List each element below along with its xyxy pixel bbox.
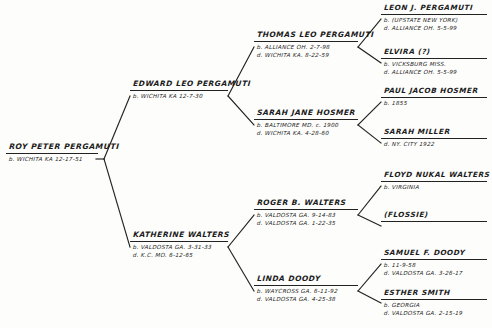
node-root-name: ROY PETER PERGAMUTI bbox=[6, 142, 99, 153]
node-maternal-grandmother-name: LINDA DOODY bbox=[254, 274, 359, 285]
detail-line: d. VALDOSTA GA. 2-15-19 bbox=[384, 309, 488, 317]
node-great-grandmother-1[interactable]: ELVIRA (?) b. VICKSBURG MISS. d. ALLIANC… bbox=[381, 47, 487, 76]
node-great-grandfather-4-details: b. 11-9-58 d. VALDOSTA GA. 3-26-17 bbox=[381, 260, 487, 278]
edge-mgf-ggf3 bbox=[358, 186, 381, 215]
detail-line: b. BALTIMORE MD. c. 1900 bbox=[257, 121, 359, 129]
node-maternal-grandfather[interactable]: ROGER B. WALTERS b. VALDOSTA GA. 9-14-83… bbox=[254, 198, 358, 227]
edge-mgf-ggm3 bbox=[358, 215, 381, 226]
node-great-grandfather-2[interactable]: PAUL JACOB HOSMER b. 1855 bbox=[381, 86, 487, 107]
node-great-grandfather-4[interactable]: SAMUEL F. DOODY b. 11-9-58 d. VALDOSTA G… bbox=[381, 248, 487, 277]
edge-mother-mgf bbox=[228, 215, 254, 247]
node-mother-details: b. VALDOSTA GA. 3-31-33 d. K.C. MO. 6-12… bbox=[130, 242, 228, 260]
detail-line: b. VALDOSTA GA. 3-31-33 bbox=[133, 243, 229, 251]
detail-line: b. WAYCROSS GA. 6-11-92 bbox=[257, 287, 359, 295]
edge-mgm-ggf4 bbox=[358, 264, 381, 291]
detail-line: b. ALLIANCE OH. 2-7-98 bbox=[257, 43, 359, 51]
detail-line: b. WICHITA KA 12-7-30 bbox=[133, 92, 229, 100]
edge-mgm-ggm4 bbox=[358, 291, 381, 303]
edge-mother-mgm bbox=[228, 247, 254, 291]
node-great-grandfather-1-details: b. (UPSTATE NEW YORK) d. ALLIANCE OH. 5-… bbox=[381, 15, 487, 33]
edge-father-pgf bbox=[228, 47, 254, 96]
detail-line: b. VALDOSTA GA. 9-14-83 bbox=[257, 211, 359, 219]
node-great-grandfather-4-name: SAMUEL F. DOODY bbox=[381, 248, 488, 259]
node-father-details: b. WICHITA KA 12-7-30 bbox=[130, 91, 228, 101]
node-maternal-grandmother[interactable]: LINDA DOODY b. WAYCROSS GA. 6-11-92 d. V… bbox=[254, 274, 358, 303]
detail-line: d. WICHITA KA. 8-22-59 bbox=[257, 51, 359, 59]
node-great-grandfather-1[interactable]: LEON J. PERGAMUTI b. (UPSTATE NEW YORK) … bbox=[381, 3, 487, 32]
detail-line: b. VICKSBURG MISS. bbox=[384, 60, 488, 68]
node-root[interactable]: ROY PETER PERGAMUTI b. WICHITA KA 12-17-… bbox=[6, 142, 98, 163]
detail-line: b. GEORGIA bbox=[384, 301, 488, 309]
detail-line: d. NY. CITY 1922 bbox=[384, 140, 488, 148]
node-paternal-grandfather[interactable]: THOMAS LEO PERGAMUTI b. ALLIANCE OH. 2-7… bbox=[254, 30, 358, 59]
detail-line: d. K.C. MO. 6-12-65 bbox=[133, 251, 229, 259]
node-great-grandmother-2-details: d. NY. CITY 1922 bbox=[381, 139, 487, 149]
edge-father-pgm bbox=[228, 96, 254, 125]
detail-line: d. VALDOSTA GA. 4-25-38 bbox=[257, 295, 359, 303]
node-father-name: EDWARD LEO PERGAMUTI bbox=[130, 79, 229, 90]
edge-pgf-ggm1 bbox=[358, 47, 381, 63]
edge-root-mother bbox=[104, 159, 130, 247]
detail-line: b. VIRGINIA bbox=[384, 183, 488, 191]
detail-line: b. 11-9-58 bbox=[384, 261, 488, 269]
node-great-grandmother-3-name: (FLOSSIE) bbox=[381, 210, 488, 221]
node-great-grandfather-2-name: PAUL JACOB HOSMER bbox=[381, 86, 488, 97]
node-great-grandmother-2-name: SARAH MILLER bbox=[381, 127, 488, 138]
node-paternal-grandfather-details: b. ALLIANCE OH. 2-7-98 d. WICHITA KA. 8-… bbox=[254, 42, 358, 60]
node-great-grandfather-1-name: LEON J. PERGAMUTI bbox=[381, 3, 488, 14]
node-paternal-grandmother[interactable]: SARAH JANE HOSMER b. BALTIMORE MD. c. 19… bbox=[254, 108, 358, 137]
node-great-grandfather-3-details: b. VIRGINIA bbox=[381, 182, 487, 192]
node-father[interactable]: EDWARD LEO PERGAMUTI b. WICHITA KA 12-7-… bbox=[130, 79, 228, 100]
node-great-grandmother-2[interactable]: SARAH MILLER d. NY. CITY 1922 bbox=[381, 127, 487, 148]
node-great-grandmother-1-details: b. VICKSBURG MISS. d. ALLIANCE OH. 5-5-9… bbox=[381, 59, 487, 77]
node-root-details: b. WICHITA KA 12-17-51 bbox=[6, 154, 98, 164]
node-mother-name: KATHERINE WALTERS bbox=[130, 230, 229, 241]
node-great-grandmother-4-name: ESTHER SMITH bbox=[381, 288, 488, 299]
node-great-grandmother-1-name: ELVIRA (?) bbox=[381, 47, 488, 58]
edge-pgm-ggm2 bbox=[358, 125, 381, 143]
detail-line: d. ALLIANCE OH. 5-5-99 bbox=[384, 68, 488, 76]
detail-line: d. VALDOSTA GA. 3-26-17 bbox=[384, 269, 488, 277]
node-maternal-grandmother-details: b. WAYCROSS GA. 6-11-92 d. VALDOSTA GA. … bbox=[254, 286, 358, 304]
detail-line: d. WICHITA KA. 4-28-60 bbox=[257, 129, 359, 137]
node-paternal-grandmother-name: SARAH JANE HOSMER bbox=[254, 108, 359, 119]
node-maternal-grandfather-details: b. VALDOSTA GA. 9-14-83 d. VALDOSTA GA. … bbox=[254, 210, 358, 228]
node-great-grandmother-3[interactable]: (FLOSSIE) bbox=[381, 210, 487, 223]
detail-line: d. VALDOSTA GA. 1-22-35 bbox=[257, 219, 359, 227]
detail-line: b. (UPSTATE NEW YORK) bbox=[384, 16, 488, 24]
node-great-grandmother-3-details bbox=[381, 222, 487, 224]
pedigree-chart: ROY PETER PERGAMUTI b. WICHITA KA 12-17-… bbox=[0, 0, 492, 328]
node-great-grandmother-4-details: b. GEORGIA d. VALDOSTA GA. 2-15-19 bbox=[381, 300, 487, 318]
node-great-grandfather-3-name: FLOYD NUKAL WALTERS bbox=[381, 170, 488, 181]
node-great-grandmother-4[interactable]: ESTHER SMITH b. GEORGIA d. VALDOSTA GA. … bbox=[381, 288, 487, 317]
node-paternal-grandfather-name: THOMAS LEO PERGAMUTI bbox=[254, 30, 359, 41]
node-paternal-grandmother-details: b. BALTIMORE MD. c. 1900 d. WICHITA KA. … bbox=[254, 120, 358, 138]
edge-pgm-ggf2 bbox=[358, 102, 381, 125]
detail-line: b. WICHITA KA 12-17-51 bbox=[9, 155, 99, 163]
node-great-grandfather-2-details: b. 1855 bbox=[381, 98, 487, 108]
node-great-grandfather-3[interactable]: FLOYD NUKAL WALTERS b. VIRGINIA bbox=[381, 170, 487, 191]
detail-line: b. 1855 bbox=[384, 99, 488, 107]
detail-line: d. ALLIANCE OH. 5-5-99 bbox=[384, 24, 488, 32]
node-mother[interactable]: KATHERINE WALTERS b. VALDOSTA GA. 3-31-3… bbox=[130, 230, 228, 259]
node-maternal-grandfather-name: ROGER B. WALTERS bbox=[254, 198, 359, 209]
